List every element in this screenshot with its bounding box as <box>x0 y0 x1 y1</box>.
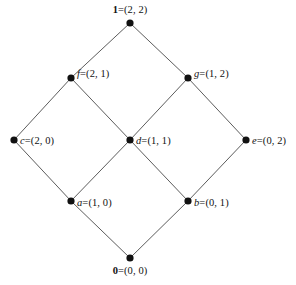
node-value-top: =(2, 2) <box>118 4 147 15</box>
lattice-node-top[interactable] <box>126 19 133 26</box>
node-label-b: b=(0, 1) <box>194 198 229 209</box>
lattice-edge <box>130 78 188 140</box>
lattice-node-b[interactable] <box>184 197 191 204</box>
node-label-bottom: 0=(0, 0) <box>113 266 148 277</box>
lattice-edge <box>130 23 188 78</box>
node-value-c: =(2, 0) <box>25 135 54 146</box>
lattice-edge <box>188 78 246 140</box>
lattice-edge <box>71 201 130 258</box>
node-label-a: a=(1, 0) <box>77 198 112 209</box>
lattice-edge <box>130 201 188 258</box>
node-value-d: =(1, 1) <box>141 135 170 146</box>
lattice-edge <box>71 78 130 140</box>
hasse-diagram: 1=(2, 2)f=(2, 1)g=(1, 2)c=(2, 0)d=(1, 1)… <box>0 0 296 285</box>
node-label-top: 1=(2, 2) <box>113 5 148 16</box>
lattice-edge <box>188 140 246 201</box>
node-value-e: =(0, 2) <box>257 135 286 146</box>
lattice-node-a[interactable] <box>67 197 74 204</box>
node-value-f: =(2, 1) <box>80 68 109 79</box>
lattice-node-g[interactable] <box>184 74 191 81</box>
lattice-node-e[interactable] <box>242 136 249 143</box>
node-label-c: c=(2, 0) <box>20 136 54 147</box>
node-value-g: =(1, 2) <box>199 68 228 79</box>
lattice-node-bottom[interactable] <box>126 254 133 261</box>
node-value-bottom: =(0, 0) <box>118 265 147 276</box>
lattice-edge <box>130 140 188 201</box>
lattice-node-f[interactable] <box>67 74 74 81</box>
lattice-node-c[interactable] <box>10 136 17 143</box>
node-label-d: d=(1, 1) <box>136 136 171 147</box>
lattice-node-d[interactable] <box>126 136 133 143</box>
node-label-g: g=(1, 2) <box>194 69 229 80</box>
lattice-edge <box>14 140 71 201</box>
node-value-a: =(1, 0) <box>82 197 111 208</box>
lattice-edge <box>71 140 130 201</box>
lattice-edge <box>14 78 71 140</box>
node-label-e: e=(0, 2) <box>252 136 286 147</box>
node-label-f: f=(2, 1) <box>77 69 109 80</box>
node-value-b: =(0, 1) <box>199 197 228 208</box>
